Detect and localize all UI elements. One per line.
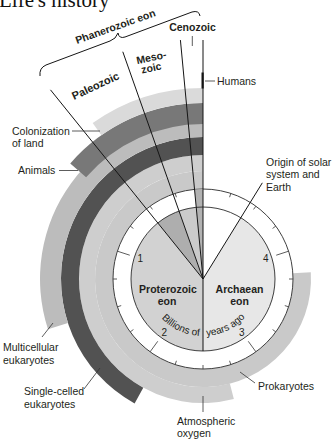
single-celled-label-line-1: Single-celled	[24, 385, 84, 397]
phanerozoic-eon-label: Phanerozoic eon	[74, 7, 157, 46]
single-celled-label-line-2: eukaryotes	[24, 398, 75, 410]
multicellular-label-line-2: eukaryotes	[3, 354, 54, 366]
scale-label-4: 4	[263, 253, 269, 264]
scale-label-3: 3	[239, 327, 245, 338]
scale-label-1: 1	[137, 253, 143, 264]
scale-label-2: 2	[161, 327, 167, 338]
origin-label-line-2: system and	[266, 168, 320, 180]
colonization-label-line-2: of land	[12, 137, 44, 149]
paleozoic-label: Paleozoic	[70, 69, 121, 101]
proterozoic-eon-label-line-1: Proterozoic	[139, 283, 197, 295]
origin-label-line-1: Origin of solar	[266, 156, 332, 168]
oxygen-label-line-2: oxygen	[177, 427, 211, 439]
humans-label: Humans	[217, 75, 256, 87]
cenozoic-label: Cenozoic	[169, 21, 216, 33]
oxygen-label-line-1: Atmospheric	[177, 415, 235, 427]
proterozoic-eon-label-line-2: eon	[158, 295, 177, 307]
archaean-eon-label-line-1: Archaean	[216, 283, 264, 295]
animals-label: Animals	[18, 164, 55, 176]
single-celled-leader	[84, 368, 100, 389]
prokaryotes-label: Prokaryotes	[258, 380, 314, 392]
page-title: Life's history	[0, 0, 110, 12]
colonization-label-line-1: Colonization	[12, 125, 70, 137]
origin-label-line-3: Earth	[266, 181, 291, 193]
life-history-clock-diagram: Life's history 1 2 3 4 Phanerozoic eon P…	[0, 0, 336, 444]
archaean-eon-label-line-2: eon	[230, 295, 249, 307]
multicellular-label-line-1: Multicellular	[3, 341, 59, 353]
